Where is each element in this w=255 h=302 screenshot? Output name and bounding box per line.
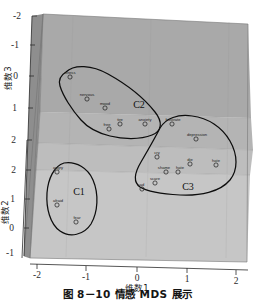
point-label-anxiety: anxiety	[139, 117, 153, 122]
y-tick-label: -1	[6, 248, 14, 258]
point-label-shame: shame	[158, 165, 171, 170]
figure-container: -2 -1 0 1 2 维数3 2 1 0 -1 维数2 -2	[0, 0, 255, 302]
point-label-stress: stress	[65, 70, 76, 75]
x-tick-label: 2	[234, 276, 239, 286]
point-label-nervous: nervous	[80, 92, 95, 97]
point-label-hate-2: hate	[176, 165, 185, 170]
figure-caption: 图 8－10 情感 MDS 展示	[0, 286, 255, 301]
z-tick-label: -2	[13, 11, 21, 21]
x-tick-label: -2	[33, 270, 41, 280]
z-tick-label: 1	[12, 103, 17, 113]
cluster-label-c3: C3	[182, 181, 194, 192]
mds-3d-scatter-plot: -2 -1 0 1 2 维数3 2 1 0 -1 维数2 -2	[0, 0, 255, 302]
point-label-scare: scare	[150, 176, 161, 181]
point-label-frustrate: frustrate	[165, 117, 181, 122]
point-label-tire: tire	[117, 117, 123, 122]
x-tick-label: 1	[185, 274, 190, 284]
cluster-label-c1: C1	[73, 186, 85, 197]
y-axis-title: 维数2	[0, 200, 10, 223]
x-tick-label: 0	[135, 273, 140, 283]
z-tick-label: 0	[13, 71, 18, 81]
z-axis-title: 维数3	[3, 66, 13, 89]
z-tick-label: 2	[11, 135, 16, 145]
point-label-mood: mood	[100, 101, 111, 106]
y-tick-label: 2	[11, 165, 16, 175]
point-label-sad: sad	[138, 182, 145, 187]
z-tick-label: -1	[11, 40, 19, 50]
point-label-die: die	[187, 157, 193, 162]
point-label-cry: cry	[154, 150, 160, 155]
x-tick-label: -1	[82, 272, 90, 282]
point-label-fear: fear	[73, 215, 81, 220]
cluster-label-c2: C2	[133, 99, 145, 110]
y-tick-label: 1	[10, 194, 15, 204]
point-label-depression: depression	[187, 132, 208, 137]
point-label-free: free	[103, 122, 111, 127]
point-label-angry: angry	[53, 165, 64, 170]
point-label-afraid: afraid	[53, 198, 64, 203]
point-label-hate: hate	[212, 158, 221, 163]
y-tick-label: 0	[9, 223, 14, 233]
